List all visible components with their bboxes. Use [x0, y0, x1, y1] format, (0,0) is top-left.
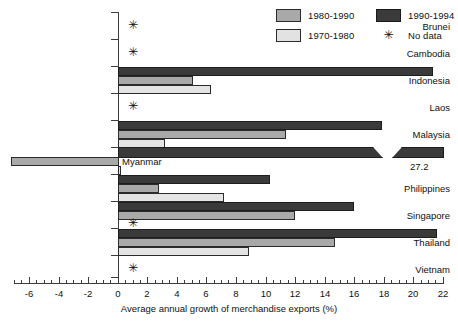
x-tick-label: 6 [191, 288, 221, 299]
x-tick-major [295, 277, 296, 283]
category-label-cambodia: Cambodia [348, 48, 458, 59]
x-tick-minor [96, 280, 97, 283]
x-tick-minor [340, 280, 341, 283]
x-tick-major [29, 277, 30, 283]
y-tick [111, 39, 118, 40]
category-label-singapore: Singapore [348, 210, 458, 221]
category-label-indonesia: Indonesia [348, 75, 458, 86]
x-tick-minor [66, 280, 67, 283]
bar-philippines-1990-1994 [118, 175, 270, 184]
x-tick-label: 20 [398, 288, 428, 299]
x-tick-minor [391, 280, 392, 283]
bar-myanmar-1980-1990 [11, 157, 119, 166]
category-label-laos: Laos [348, 102, 458, 113]
y-tick [111, 201, 118, 202]
x-tick-label: -6 [14, 288, 44, 299]
no-data-asterisk-singapore: ✳ [128, 217, 138, 229]
x-tick-label: 16 [339, 288, 369, 299]
x-tick-minor [199, 280, 200, 283]
x-tick-label: -4 [44, 288, 74, 299]
x-tick-minor [214, 280, 215, 283]
category-label-philippines: Philippines [348, 183, 458, 194]
y-tick [111, 120, 118, 121]
bar-philippines-1970-1980 [118, 193, 224, 202]
x-tick-label: 8 [221, 288, 251, 299]
x-tick-minor [332, 280, 333, 283]
x-tick-minor [428, 280, 429, 283]
x-tick-label: -2 [73, 288, 103, 299]
x-tick-minor [21, 280, 22, 283]
bar-indonesia-1980-1990 [118, 76, 193, 85]
y-tick [111, 228, 118, 229]
bar-malaysia-1970-1980 [118, 139, 165, 148]
bar-singapore-1980-1990 [118, 211, 295, 220]
x-tick-minor [406, 280, 407, 283]
x-tick-minor [243, 280, 244, 283]
category-label-brunei: Brunei [348, 21, 458, 32]
x-tick-minor [184, 280, 185, 283]
x-tick-major [384, 277, 385, 283]
x-tick-major [236, 277, 237, 283]
x-tick-major [354, 277, 355, 283]
category-label-thailand: Thailand [348, 237, 458, 248]
y-tick [111, 147, 118, 148]
x-tick-minor [317, 280, 318, 283]
x-tick-minor [303, 280, 304, 283]
x-tick-minor [310, 280, 311, 283]
x-tick-minor [44, 280, 45, 283]
x-tick-minor [103, 280, 104, 283]
x-tick-major [147, 277, 148, 283]
x-tick-major [88, 277, 89, 283]
y-tick [111, 66, 118, 67]
x-tick-minor [362, 280, 363, 283]
bar-thailand-1970-1980 [118, 247, 249, 256]
x-tick-label: 10 [251, 288, 281, 299]
bar-indonesia-1990-1994 [118, 67, 433, 76]
no-data-asterisk-brunei: ✳ [128, 19, 138, 31]
y-tick [111, 255, 118, 256]
x-tick-label: 22 [428, 288, 458, 299]
x-tick-label: 12 [280, 288, 310, 299]
chart-horizontal-bar: 1980-1990 1970-1980 1990-1994 ✳ No data [0, 0, 458, 328]
x-tick-minor [399, 280, 400, 283]
x-tick-minor [110, 280, 111, 283]
x-tick-minor [369, 280, 370, 283]
x-tick-minor [36, 280, 37, 283]
y-tick [111, 277, 118, 278]
x-tick-major [325, 277, 326, 283]
bar-singapore-1990-1994 [118, 202, 354, 211]
bar-indonesia-1970-1980 [118, 85, 211, 94]
x-tick-minor [251, 280, 252, 283]
x-tick-label: 2 [132, 288, 162, 299]
x-tick-minor [133, 280, 134, 283]
x-tick-major [206, 277, 207, 283]
x-tick-label: 18 [369, 288, 399, 299]
no-data-asterisk-cambodia: ✳ [128, 46, 138, 58]
bar-thailand-1990-1994 [118, 229, 437, 238]
x-axis-line [14, 283, 444, 284]
x-tick-major [118, 277, 119, 283]
category-label-vietnam: Vietnam [348, 264, 458, 275]
x-tick-minor [273, 280, 274, 283]
x-tick-minor [14, 280, 15, 283]
x-tick-minor [376, 280, 377, 283]
x-tick-minor [73, 280, 74, 283]
x-tick-label: 4 [162, 288, 192, 299]
bar-malaysia-1990-1994 [118, 121, 382, 130]
x-tick-minor [125, 280, 126, 283]
bar-myanmar-1990-1994-right [392, 147, 444, 158]
x-tick-minor [435, 280, 436, 283]
x-tick-major [413, 277, 414, 283]
x-tick-major [443, 277, 444, 283]
x-tick-minor [155, 280, 156, 283]
bar-thailand-1980-1990 [118, 238, 335, 247]
no-data-asterisk-laos: ✳ [128, 100, 138, 112]
x-tick-major [266, 277, 267, 283]
plot-area: Brunei ✳ Cambodia ✳ Indonesia Laos ✳ Mal… [0, 0, 458, 328]
bar-myanmar-1990-1994-left [118, 147, 383, 158]
x-tick-major [177, 277, 178, 283]
y-tick [111, 12, 118, 13]
x-tick-minor [421, 280, 422, 283]
x-tick-minor [221, 280, 222, 283]
x-tick-major [59, 277, 60, 283]
